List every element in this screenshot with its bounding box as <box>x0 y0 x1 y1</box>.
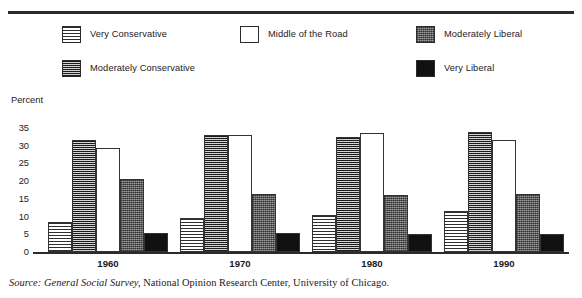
legend-item-label: Middle of the Road <box>268 30 348 39</box>
legend-item-label: Moderately Conservative <box>90 64 195 73</box>
x-axis-line <box>33 252 569 254</box>
header-divider <box>8 11 574 14</box>
bar <box>228 135 252 252</box>
bar <box>252 194 276 252</box>
bar <box>540 234 564 252</box>
bar <box>516 194 540 252</box>
bar <box>204 135 228 252</box>
x-axis-group-label: 1960 <box>97 258 118 269</box>
bar <box>312 215 336 252</box>
bar <box>120 179 144 252</box>
bar <box>72 140 96 252</box>
dense-hatch-swatch <box>62 60 81 77</box>
legend-item: Very Conservative <box>62 26 167 43</box>
chart-plot-area: Percent 35302520151050 1960197019801990 <box>0 95 582 260</box>
bar <box>360 133 384 252</box>
source-prefix: Source: <box>9 277 41 288</box>
bar <box>492 140 516 252</box>
white-swatch <box>240 26 259 43</box>
legend-item-label: Moderately Liberal <box>444 30 522 39</box>
bar-series-container <box>0 95 582 252</box>
x-axis-group-label: 1970 <box>229 258 250 269</box>
bar <box>48 222 72 252</box>
bar <box>444 211 468 252</box>
bar <box>180 218 204 252</box>
legend-item: Moderately Liberal <box>416 26 522 43</box>
bar <box>276 233 300 252</box>
bar <box>468 132 492 252</box>
horizontal-lines-swatch <box>62 26 81 43</box>
bar <box>144 233 168 252</box>
bar <box>408 234 432 252</box>
legend-item: Very Liberal <box>416 60 494 77</box>
bar <box>384 195 408 252</box>
legend-item-label: Very Liberal <box>444 64 494 73</box>
source-organization: National Opinion Research Center, Univer… <box>143 277 389 288</box>
bar <box>96 148 120 253</box>
x-axis-group-label: 1980 <box>361 258 382 269</box>
bar <box>336 137 360 252</box>
source-survey-name: General Social Survey, <box>44 277 141 288</box>
legend-item: Moderately Conservative <box>62 60 195 77</box>
stipple-gray-swatch <box>416 26 435 43</box>
chart-legend: Very ConservativeModerately Conservative… <box>0 24 582 86</box>
x-axis-group-label: 1990 <box>493 258 514 269</box>
legend-item-label: Very Conservative <box>90 30 167 39</box>
legend-item: Middle of the Road <box>240 26 348 43</box>
solid-black-swatch <box>416 60 435 77</box>
source-note: Source: General Social Survey, National … <box>9 277 389 288</box>
